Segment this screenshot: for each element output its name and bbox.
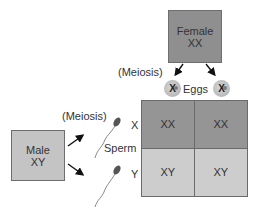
punnett-cell: XY — [142, 149, 195, 197]
sperm-label: Sperm — [104, 142, 136, 154]
male-parent-box: Male XY — [11, 130, 65, 181]
female-title: Female — [177, 25, 214, 37]
male-genotype: XY — [31, 156, 46, 168]
egg-icon-left: X — [164, 80, 181, 97]
row-label-x: X — [131, 119, 138, 131]
female-genotype: XX — [188, 37, 203, 49]
male-title: Male — [26, 144, 50, 156]
arrow-female-to-egg-left — [176, 64, 183, 74]
row-label-y: Y — [131, 168, 138, 180]
egg-icon-right: X — [213, 80, 230, 97]
meiosis-label-female: (Meiosis) — [118, 66, 163, 78]
egg-nucleus-icon — [174, 86, 178, 90]
female-parent-box: Female XX — [168, 10, 222, 63]
egg-nucleus-icon — [223, 86, 227, 90]
arrow-male-to-sperm-y — [68, 164, 82, 174]
punnett-cell: XX — [195, 101, 248, 149]
punnett-cell: XY — [195, 149, 248, 197]
eggs-label: Eggs — [183, 83, 208, 95]
punnett-square: XX XX XY XY — [141, 100, 248, 197]
arrow-male-to-sperm-x — [68, 136, 82, 146]
punnett-cell: XX — [142, 101, 195, 149]
sperm-y-icon — [95, 164, 122, 207]
arrow-female-to-egg-right — [206, 64, 214, 74]
meiosis-label-male: (Meiosis) — [62, 110, 107, 122]
